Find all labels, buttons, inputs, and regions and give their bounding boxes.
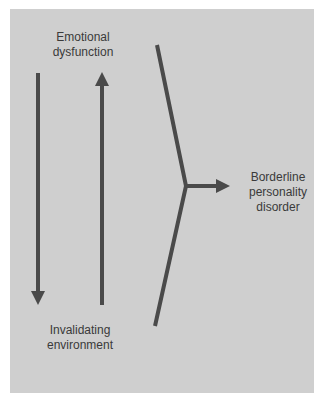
converging-bracket-icon <box>155 45 186 326</box>
emotional-dysfunction-label: Emotional dysfunction <box>38 30 128 60</box>
invalidating-environment-label: Invalidating environment <box>30 323 130 353</box>
right-arrow-icon <box>186 179 230 193</box>
outcome-line1: Borderline <box>238 170 318 185</box>
down-arrow-icon <box>31 73 45 305</box>
up-arrow-icon <box>95 72 109 305</box>
borderline-personality-disorder-label: Borderline personality disorder <box>238 170 318 215</box>
outcome-line2: personality <box>238 185 318 200</box>
emotional-dysfunction-line2: dysfunction <box>38 45 128 60</box>
invalidating-environment-line2: environment <box>30 338 130 353</box>
outcome-line3: disorder <box>238 200 318 215</box>
invalidating-environment-line1: Invalidating <box>30 323 130 338</box>
emotional-dysfunction-line1: Emotional <box>38 30 128 45</box>
